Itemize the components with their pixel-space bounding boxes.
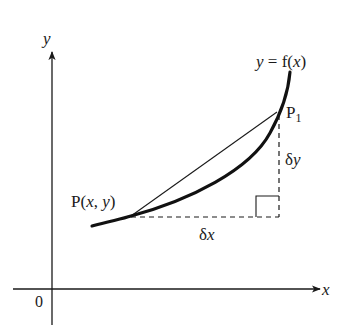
curve-f	[92, 72, 290, 226]
point-p-label: P(x, y)	[71, 192, 115, 211]
dx-label: δx	[199, 225, 215, 244]
origin-label: 0	[35, 293, 43, 310]
point-p1-label: P1	[286, 103, 301, 125]
right-angle-marker	[256, 196, 279, 217]
curve-label: y = f(x)	[254, 52, 306, 71]
diagram-canvas: y x 0 y = f(x) P1 P(x, y) δy δx	[0, 0, 348, 334]
x-axis-label: x	[321, 280, 330, 299]
dy-label: δy	[285, 150, 301, 169]
y-axis-label: y	[41, 29, 51, 48]
secant-chord	[131, 112, 277, 216]
